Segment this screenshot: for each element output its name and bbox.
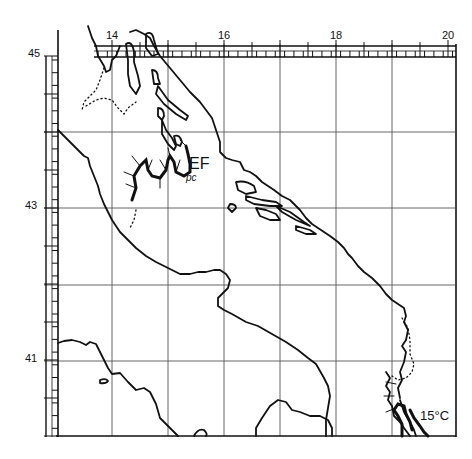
latitude-label-41: 41	[25, 352, 37, 364]
front-sublabel: pc	[186, 172, 197, 183]
graticule	[44, 44, 455, 436]
dotted-boundaries	[82, 68, 414, 380]
adriatic-map	[0, 0, 472, 459]
longitude-label-18: 18	[330, 29, 342, 41]
longitude-label-20: 20	[442, 29, 454, 41]
longitude-label-14: 14	[106, 29, 118, 41]
latitude-label-43: 43	[25, 199, 37, 211]
temperature-label: 15°C	[420, 408, 449, 423]
longitude-label-16: 16	[218, 29, 230, 41]
map-frame	[46, 30, 456, 437]
front-label: EF	[189, 155, 209, 173]
scale-ticks	[44, 40, 453, 436]
latitude-label-45: 45	[28, 47, 40, 59]
